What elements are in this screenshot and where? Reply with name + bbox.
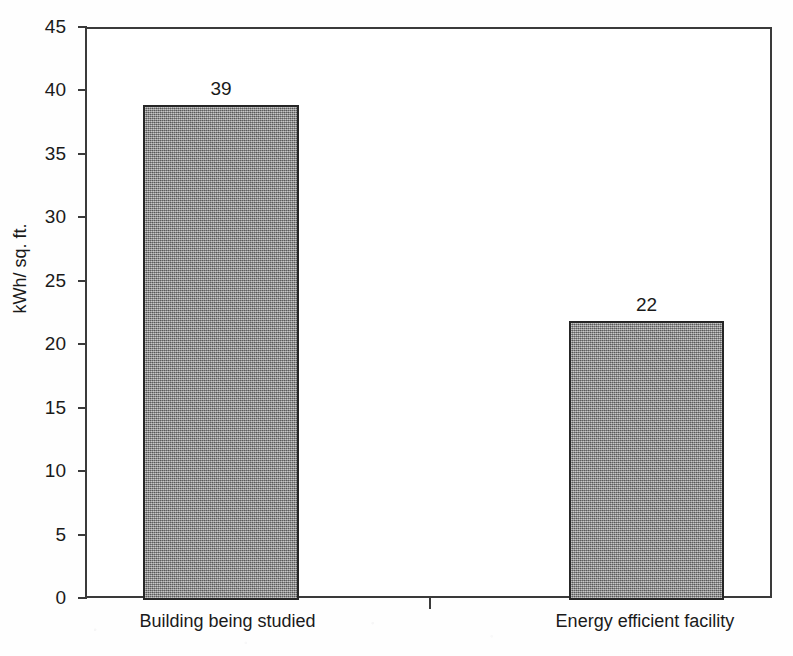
y-axis-tick-label: 20 bbox=[20, 334, 66, 353]
bar-value-label: 22 bbox=[569, 295, 724, 314]
bar[interactable] bbox=[569, 321, 724, 600]
y-axis-tick-label: 0 bbox=[20, 588, 66, 607]
y-axis-tick-label: 15 bbox=[20, 398, 66, 417]
y-axis-tick-label: 30 bbox=[20, 207, 66, 226]
bar-value-label: 39 bbox=[143, 79, 299, 98]
y-axis-tick-label: 40 bbox=[20, 80, 66, 99]
y-axis-tick-label: 10 bbox=[20, 461, 66, 480]
y-axis-tick-label: 5 bbox=[20, 525, 66, 544]
x-axis-category-label: Energy efficient facility bbox=[545, 612, 745, 630]
y-axis-tick-label: 45 bbox=[20, 17, 66, 36]
x-axis-mid-tick bbox=[429, 598, 431, 609]
x-axis-category-label: Building being studied bbox=[125, 612, 330, 630]
y-axis-tick-label: 35 bbox=[20, 144, 66, 163]
plot-area: 3922 bbox=[85, 27, 772, 598]
y-axis-tick-label: 25 bbox=[20, 271, 66, 290]
chart-page: kWh/ sq. ft. 454035302520151050 3922 Bui… bbox=[0, 0, 793, 656]
bar[interactable] bbox=[143, 105, 299, 600]
